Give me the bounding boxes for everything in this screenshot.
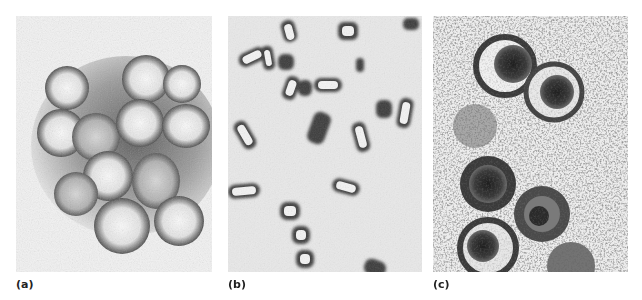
panel-label-b: (b) (228, 278, 246, 291)
panel-label-a: (a) (16, 278, 33, 291)
micrograph-image-c (433, 16, 628, 272)
micrograph-panel-b (228, 16, 422, 272)
micrograph-panel-c (433, 16, 628, 272)
micrograph-panel-a (16, 16, 212, 272)
micrograph-image-a (16, 16, 212, 272)
panel-label-c: (c) (433, 278, 450, 291)
micrograph-image-b (228, 16, 422, 272)
